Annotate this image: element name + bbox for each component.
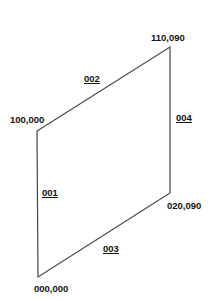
vertex-label-bottom-right: 020,090 [167,201,201,211]
edge-label-002: 002 [84,74,100,84]
vertex-label-top-right: 110,090 [151,33,185,43]
edge-label-004: 004 [176,113,192,123]
edge-label-003: 003 [103,244,119,254]
vertex-label-bottom-left: 000,000 [34,284,68,294]
vertex-label-top-left: 100,000 [10,115,44,125]
edge-label-001: 001 [42,188,58,198]
parallelogram-diagram [0,0,217,300]
